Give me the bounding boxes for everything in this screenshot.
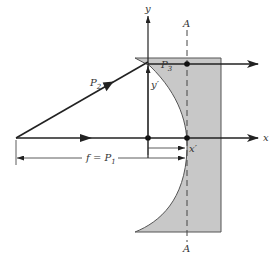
ray-P2 bbox=[16, 62, 148, 138]
plane-A-top-label: A bbox=[182, 18, 190, 29]
x-prime-label: x′ bbox=[189, 143, 198, 154]
ray-diagram: y x A A P2 P3 y′ x′ f = P1 bbox=[0, 0, 275, 255]
point-P3 bbox=[184, 61, 190, 67]
focal-label: f = P1 bbox=[85, 152, 116, 166]
ray-P1-arrow-icon bbox=[80, 134, 92, 142]
point-vertex bbox=[184, 135, 190, 141]
plane-A-bottom-label: A bbox=[182, 243, 190, 254]
y-prime-label: y′ bbox=[150, 79, 160, 90]
ray-P2-label: P2 bbox=[89, 77, 102, 91]
y-axis-label: y bbox=[144, 3, 151, 14]
x-axis-label: x bbox=[263, 132, 269, 143]
